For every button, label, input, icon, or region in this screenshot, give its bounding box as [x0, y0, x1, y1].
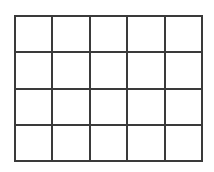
- grid-cell: [128, 17, 165, 53]
- grid-cell: [166, 53, 203, 89]
- grid-cell: [16, 53, 53, 89]
- grid-cell: [53, 90, 90, 126]
- grid-cell: [91, 90, 128, 126]
- grid-cell: [53, 17, 90, 53]
- grid-cell: [91, 53, 128, 89]
- grid-cell: [128, 90, 165, 126]
- grid-cell: [128, 53, 165, 89]
- grid-cell: [16, 126, 53, 162]
- empty-grid: [14, 15, 203, 162]
- grid-cell: [166, 90, 203, 126]
- grid-cell: [53, 126, 90, 162]
- grid-cell: [53, 53, 90, 89]
- grid-cell: [128, 126, 165, 162]
- grid-cell: [91, 126, 128, 162]
- grid-cell: [91, 17, 128, 53]
- grid-cell: [16, 17, 53, 53]
- grid-cell: [16, 90, 53, 126]
- grid-cell: [166, 17, 203, 53]
- grid-cell: [166, 126, 203, 162]
